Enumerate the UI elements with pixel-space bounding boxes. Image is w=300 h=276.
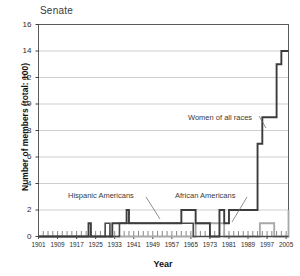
y-tick-10: 10 xyxy=(16,99,32,108)
x-tick-1901: 1901 xyxy=(31,241,45,248)
x-tick-1933: 1933 xyxy=(108,241,122,248)
x-tick-2005: 2005 xyxy=(279,241,293,248)
y-tick-2: 2 xyxy=(16,205,32,214)
y-tick-12: 12 xyxy=(16,73,32,82)
x-axis-title: Year xyxy=(38,259,288,269)
x-tick-1989: 1989 xyxy=(241,241,255,248)
y-tick-14: 14 xyxy=(16,46,32,55)
y-tick-8: 8 xyxy=(16,126,32,135)
x-tick-1997: 1997 xyxy=(260,241,274,248)
x-tick-1957: 1957 xyxy=(165,241,179,248)
annotation-african: African Americans xyxy=(175,191,235,200)
chart-title: Senate xyxy=(40,5,73,16)
x-tick-1981: 1981 xyxy=(222,241,236,248)
x-tick-1917: 1917 xyxy=(69,241,83,248)
x-tick-1909: 1909 xyxy=(50,241,64,248)
y-tick-4: 4 xyxy=(16,179,32,188)
x-tick-1941: 1941 xyxy=(127,241,141,248)
x-tick-1925: 1925 xyxy=(89,241,103,248)
plot-area xyxy=(0,0,300,276)
y-tick-0: 0 xyxy=(16,232,32,241)
y-tick-6: 6 xyxy=(16,152,32,161)
x-tick-1949: 1949 xyxy=(146,241,160,248)
y-tick-16: 16 xyxy=(16,20,32,29)
annotation-women: Women of all races xyxy=(188,113,252,122)
annotation-hispanic: Hispanic Americans xyxy=(68,191,134,200)
x-tick-1965: 1965 xyxy=(184,241,198,248)
senate-chart: Senate Number of members (total: 100) Ye… xyxy=(0,0,300,276)
x-tick-1973: 1973 xyxy=(203,241,217,248)
